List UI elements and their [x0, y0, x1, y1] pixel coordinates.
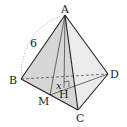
tetrahedron-diagram: A B C D M H 6 x	[0, 0, 127, 127]
label-c: C	[76, 112, 84, 125]
label-d: D	[110, 68, 119, 81]
diagram-canvas: A B C D M H 6 x	[0, 0, 127, 127]
label-b: B	[9, 74, 17, 87]
label-angle-x: x	[56, 80, 62, 91]
label-length: 6	[30, 37, 37, 50]
label-m: M	[38, 95, 49, 108]
label-a: A	[60, 3, 70, 16]
